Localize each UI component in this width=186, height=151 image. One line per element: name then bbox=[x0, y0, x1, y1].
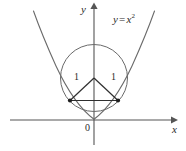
right-intersection-point bbox=[116, 98, 120, 102]
origin-label: 0 bbox=[85, 123, 90, 133]
left-intersection-point bbox=[68, 98, 72, 102]
curve-equation-operator: = bbox=[118, 13, 126, 25]
figure-canvas bbox=[0, 0, 186, 151]
left-radius-label: 1 bbox=[74, 72, 79, 82]
curve-equation-exponent: 2 bbox=[132, 12, 136, 20]
x-axis-label: x bbox=[172, 124, 177, 135]
right-radius-label: 1 bbox=[111, 72, 116, 82]
y-axis bbox=[90, 3, 97, 146]
y-axis-arrow bbox=[90, 3, 97, 10]
curve-equation-label: y=x2 bbox=[113, 14, 135, 25]
y-axis-label: y bbox=[81, 4, 86, 15]
math-figure: y=x2 y x 0 1 1 bbox=[0, 0, 186, 151]
